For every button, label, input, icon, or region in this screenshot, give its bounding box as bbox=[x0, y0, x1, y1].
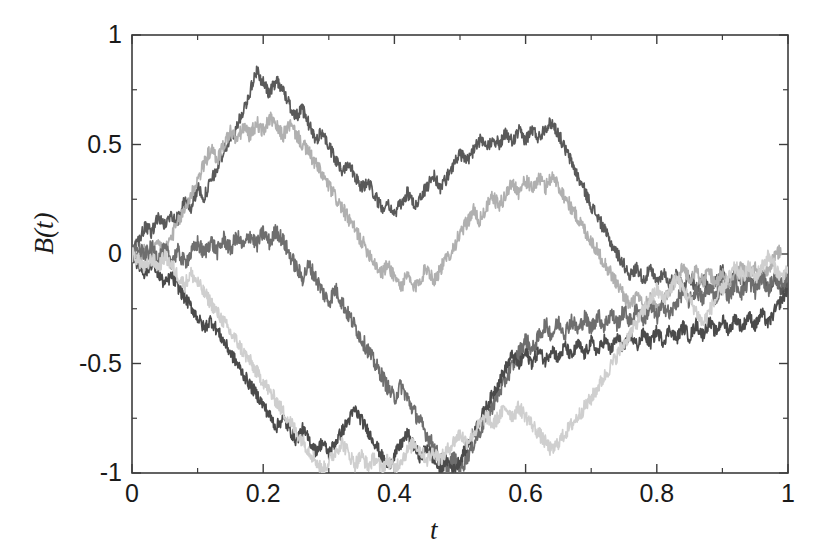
chart-canvas: B(t) t 00.20.40.60.81-1-0.500.51 bbox=[0, 0, 826, 552]
y-tick-label: 1 bbox=[108, 22, 122, 47]
x-tick-label: 0.4 bbox=[377, 481, 412, 506]
x-axis-label: t bbox=[430, 515, 438, 546]
y-tick-label: 0 bbox=[108, 241, 122, 266]
brownian-motion-plot bbox=[0, 0, 826, 552]
x-tick-label: 0.6 bbox=[508, 481, 543, 506]
x-tick-label: 1 bbox=[781, 481, 795, 506]
y-tick-label: 0.5 bbox=[87, 132, 122, 157]
x-tick-label: 0 bbox=[125, 481, 139, 506]
y-axis-label: B(t) bbox=[29, 204, 60, 264]
x-tick-label: 0.2 bbox=[246, 481, 281, 506]
y-tick-label: -0.5 bbox=[79, 351, 122, 376]
y-tick-label: -1 bbox=[100, 460, 122, 485]
x-tick-label: 0.8 bbox=[639, 481, 674, 506]
